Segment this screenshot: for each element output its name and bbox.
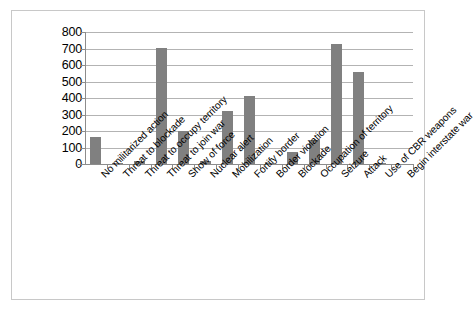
y-axis-tick-mark (81, 65, 85, 66)
y-axis-tick-mark (81, 82, 85, 83)
y-axis-tick-mark (81, 49, 85, 50)
y-axis-tick-mark (81, 131, 85, 132)
y-axis-tick-mark (81, 115, 85, 116)
chart-frame: 8007006005004003002001000 No militarized… (11, 10, 425, 300)
y-axis-tick-mark (81, 164, 85, 165)
y-axis-tick-mark (81, 32, 85, 33)
bar-chart: 8007006005004003002001000 No militarized… (12, 11, 426, 301)
y-axis-tick-mark (81, 148, 85, 149)
x-axis-category-labels: No militarized actionThreat to blockadeT… (12, 11, 426, 301)
y-axis-tick-mark (81, 98, 85, 99)
